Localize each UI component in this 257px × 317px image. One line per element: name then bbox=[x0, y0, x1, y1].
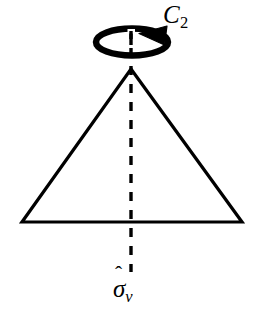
symmetry-diagram-figure: ˆ C 2 ˆ σ v bbox=[0, 0, 257, 317]
mirror-plane-subscript: v bbox=[125, 287, 132, 306]
c-hat-glyph: ˆ C bbox=[163, 2, 180, 27]
rotation-axis-subscript: 2 bbox=[180, 13, 188, 32]
figure-background bbox=[0, 0, 257, 317]
mirror-plane-label: ˆ σ v bbox=[113, 276, 133, 306]
sigma-hat-glyph: ˆ σ bbox=[113, 276, 125, 301]
diagram-canvas bbox=[0, 0, 257, 317]
circumflex-icon: ˆ bbox=[166, 0, 174, 11]
rotation-axis-label: ˆ C 2 bbox=[163, 2, 188, 32]
circumflex-icon: ˆ bbox=[115, 264, 122, 286]
